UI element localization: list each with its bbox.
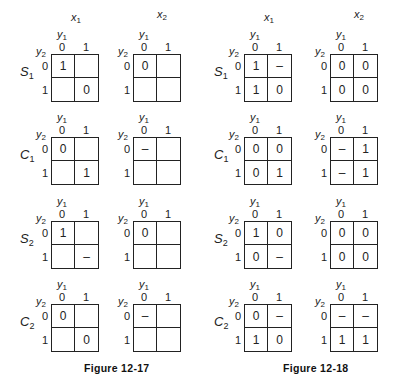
column-header-x2-subscript: 2 bbox=[163, 13, 167, 22]
function-label-c2-subscript: 2 bbox=[223, 321, 228, 331]
figure-caption: Figure 12-17 bbox=[84, 362, 149, 374]
function-label-c2-letter: C bbox=[214, 314, 223, 329]
row-value-label: 1 bbox=[321, 168, 327, 179]
function-label-s2-letter: S bbox=[20, 231, 29, 246]
row-value-label: 0 bbox=[42, 144, 48, 155]
function-label-c1: C1 bbox=[20, 147, 34, 164]
column-value-label: 1 bbox=[362, 42, 368, 53]
row-value-label: 1 bbox=[235, 252, 241, 263]
axis-y2-label-subscript: 2 bbox=[42, 50, 46, 59]
column-value-label: 0 bbox=[252, 292, 258, 303]
karnaugh-map-grid: – bbox=[133, 137, 181, 185]
karnaugh-map-grid: 0 bbox=[133, 54, 181, 102]
axis-y2-label: y2 bbox=[315, 129, 325, 143]
karnaugh-map-grid: – bbox=[133, 304, 181, 352]
column-value-label: 0 bbox=[141, 209, 147, 220]
column-value-label: 1 bbox=[276, 292, 282, 303]
axis-y2-label: y2 bbox=[36, 296, 46, 310]
karnaugh-map-cell: – bbox=[134, 305, 157, 328]
function-label-c1-letter: C bbox=[214, 147, 223, 162]
row-value-label: 1 bbox=[321, 335, 327, 346]
column-value-label: 1 bbox=[83, 42, 89, 53]
karnaugh-map-cell bbox=[157, 222, 180, 245]
karnaugh-map-cell: 0 bbox=[331, 78, 354, 101]
axis-y2-label-subscript: 2 bbox=[42, 133, 46, 142]
karnaugh-map-cell: 1 bbox=[354, 138, 377, 161]
karnaugh-map-cell: 1 bbox=[245, 78, 268, 101]
row-value-label: 0 bbox=[235, 61, 241, 72]
axis-y2-label-subscript: 2 bbox=[321, 300, 325, 309]
column-value-label: 1 bbox=[83, 209, 89, 220]
column-value-label: 0 bbox=[141, 125, 147, 136]
karnaugh-map-grid: 1– bbox=[51, 221, 99, 269]
row-value-label: 0 bbox=[321, 311, 327, 322]
column-header-x1: x1 bbox=[71, 12, 81, 26]
karnaugh-map-grid: 0–10 bbox=[244, 304, 292, 352]
row-value-label: 1 bbox=[124, 85, 130, 96]
karnaugh-map-cell: – bbox=[268, 245, 291, 268]
axis-y2-label-subscript: 2 bbox=[235, 300, 239, 309]
function-label-s2-subscript: 2 bbox=[29, 238, 34, 248]
axis-y2-label-subscript: 2 bbox=[124, 133, 128, 142]
karnaugh-map-cell bbox=[134, 78, 157, 101]
axis-y2-label-subscript: 2 bbox=[124, 217, 128, 226]
row-value-label: 1 bbox=[42, 252, 48, 263]
row-value-label: 0 bbox=[321, 61, 327, 72]
column-header-x2: x2 bbox=[157, 9, 167, 23]
row-value-label: 0 bbox=[124, 228, 130, 239]
column-value-label: 1 bbox=[83, 292, 89, 303]
karnaugh-map-cell bbox=[52, 78, 75, 101]
karnaugh-map-grid: 10 bbox=[51, 54, 99, 102]
karnaugh-map-cell bbox=[75, 222, 98, 245]
karnaugh-map-cell: 0 bbox=[245, 305, 268, 328]
karnaugh-map-cell bbox=[157, 328, 180, 351]
karnaugh-map-cell bbox=[157, 161, 180, 184]
karnaugh-map-cell: 0 bbox=[245, 161, 268, 184]
column-value-label: 0 bbox=[59, 209, 65, 220]
axis-y2-label: y2 bbox=[118, 129, 128, 143]
karnaugh-map-cell: – bbox=[331, 305, 354, 328]
karnaugh-map-cell: – bbox=[75, 245, 98, 268]
column-value-label: 0 bbox=[338, 42, 344, 53]
karnaugh-map-cell: – bbox=[331, 161, 354, 184]
row-value-label: 0 bbox=[235, 311, 241, 322]
function-label-s1: S1 bbox=[214, 64, 228, 81]
column-value-label: 0 bbox=[338, 125, 344, 136]
axis-y2-label: y2 bbox=[229, 129, 239, 143]
karnaugh-map-cell bbox=[134, 328, 157, 351]
function-label-s2: S2 bbox=[214, 231, 228, 248]
karnaugh-map-cell: 0 bbox=[354, 55, 377, 78]
karnaugh-map-cell: 0 bbox=[268, 328, 291, 351]
karnaugh-map-grid: 0001 bbox=[244, 137, 292, 185]
axis-y2-label: y2 bbox=[118, 296, 128, 310]
karnaugh-map-cell bbox=[157, 305, 180, 328]
axis-y2-label: y2 bbox=[36, 129, 46, 143]
column-value-label: 0 bbox=[141, 42, 147, 53]
row-value-label: 0 bbox=[235, 228, 241, 239]
axis-y2-label-subscript: 2 bbox=[42, 217, 46, 226]
karnaugh-map-cell: 0 bbox=[52, 305, 75, 328]
karnaugh-map-cell: 0 bbox=[245, 245, 268, 268]
karnaugh-map-cell bbox=[52, 245, 75, 268]
function-label-c2-letter: C bbox=[20, 314, 29, 329]
karnaugh-map-cell: 0 bbox=[268, 138, 291, 161]
column-value-label: 1 bbox=[165, 125, 171, 136]
column-value-label: 0 bbox=[141, 292, 147, 303]
column-value-label: 0 bbox=[338, 209, 344, 220]
axis-y2-label: y2 bbox=[229, 213, 239, 227]
karnaugh-map-cell: 0 bbox=[245, 138, 268, 161]
karnaugh-map-grid: 100– bbox=[244, 221, 292, 269]
axis-y2-label-subscript: 2 bbox=[321, 133, 325, 142]
axis-y2-label-subscript: 2 bbox=[124, 50, 128, 59]
function-label-c1: C1 bbox=[214, 147, 228, 164]
karnaugh-map-cell bbox=[134, 161, 157, 184]
axis-y2-label-subscript: 2 bbox=[124, 300, 128, 309]
column-value-label: 0 bbox=[338, 292, 344, 303]
row-value-label: 1 bbox=[42, 85, 48, 96]
karnaugh-map-cell bbox=[157, 78, 180, 101]
axis-y2-label: y2 bbox=[315, 296, 325, 310]
row-value-label: 0 bbox=[235, 144, 241, 155]
column-value-label: 1 bbox=[276, 209, 282, 220]
karnaugh-map-cell: 1 bbox=[245, 328, 268, 351]
row-value-label: 0 bbox=[42, 61, 48, 72]
